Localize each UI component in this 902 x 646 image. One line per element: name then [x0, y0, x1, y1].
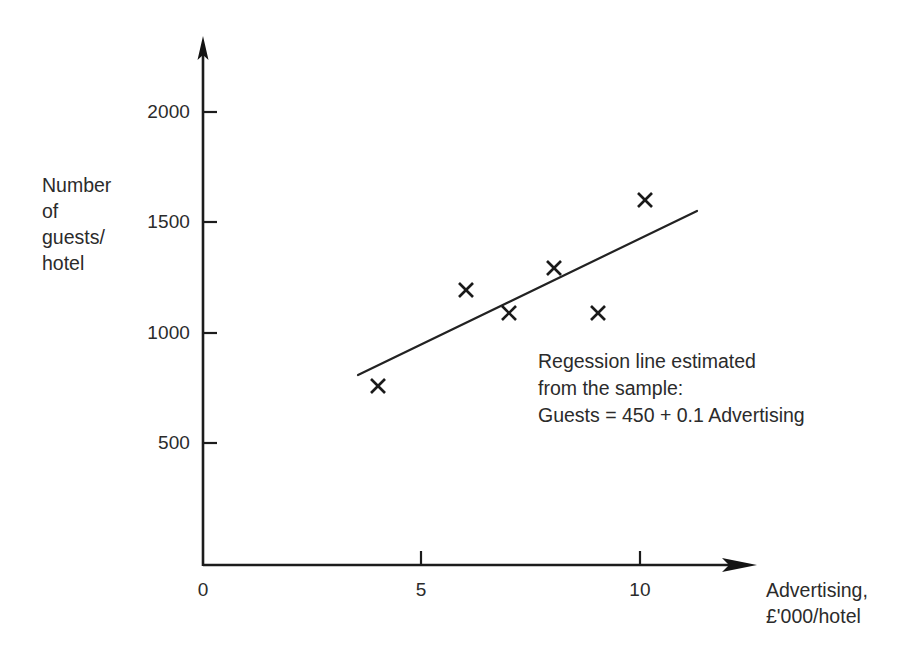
y-axis-title-line-1: Number [42, 172, 111, 198]
data-point-marker [502, 306, 516, 320]
y-tick-label-1000: 1000 [118, 323, 190, 342]
x-axis-title: Advertising, £'000/hotel [766, 577, 868, 629]
y-tick-label-500: 500 [118, 433, 190, 452]
y-tick-label-1500: 1500 [118, 212, 190, 231]
y-axis-title-line-3: guests/ [42, 224, 111, 250]
x-axis-title-line-2: £'000/hotel [766, 603, 868, 629]
scatter-plot-figure: 2000 1500 1000 500 0 5 10 Number of gues… [0, 0, 902, 646]
regression-annotation-line-2: from the sample: [538, 375, 805, 402]
regression-annotation: Regession line estimated from the sample… [538, 348, 805, 429]
y-axis-title: Number of guests/ hotel [42, 172, 111, 276]
x-tick-label-10: 10 [620, 580, 660, 599]
data-point-marker [459, 283, 473, 297]
x-tick-label-5: 5 [401, 580, 441, 599]
data-point-marker [591, 306, 605, 320]
regression-annotation-line-1: Regession line estimated [538, 348, 805, 375]
regression-annotation-line-3: Guests = 450 + 0.1 Advertising [538, 402, 805, 429]
y-axis-title-line-2: of [42, 198, 111, 224]
data-point-marker [371, 379, 385, 393]
data-point-marker [638, 193, 652, 207]
y-tick-label-2000: 2000 [118, 102, 190, 121]
x-axis-title-line-1: Advertising, [766, 577, 868, 603]
y-axis-title-line-4: hotel [42, 250, 111, 276]
x-tick-label-0: 0 [183, 580, 223, 599]
data-point-marker [547, 261, 561, 275]
